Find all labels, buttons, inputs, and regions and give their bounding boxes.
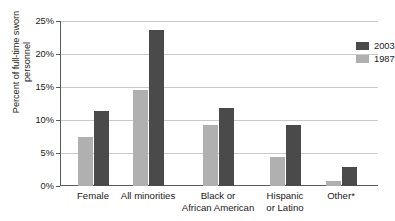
bar-2003-black-or-african-american — [219, 108, 234, 186]
legend-item-1987: 1987 — [356, 53, 395, 64]
x-axis-label-other: Other* — [327, 190, 355, 202]
y-axis-title-line-2: personnel — [22, 42, 34, 82]
x-axis-label-line: or Latino — [266, 202, 303, 214]
legend-label-1987: 1987 — [374, 54, 395, 64]
bar-1987-female — [78, 137, 93, 187]
x-axis-label-line: Hispanic — [267, 190, 304, 202]
legend-item-2003: 2003 — [356, 40, 395, 51]
y-tick-label: 10% — [35, 115, 54, 125]
y-tick-label: 25% — [35, 16, 54, 26]
legend-label-2003: 2003 — [374, 41, 395, 51]
plot-area: 0%5%10%15%20%25% 2003 1987 — [60, 21, 378, 186]
gridline-15% — [61, 87, 378, 88]
y-tick-label: 0% — [41, 181, 54, 191]
x-axis-label-female: Female — [77, 190, 109, 202]
chart-legend: 2003 1987 — [356, 40, 395, 64]
x-axis-label-line: Female — [77, 190, 109, 202]
gridline-25% — [61, 21, 378, 22]
bar-1987-all-minorities — [133, 90, 148, 186]
bar-1987-other — [326, 181, 341, 186]
bar-2003-hispanic-or-latino — [286, 125, 301, 186]
x-axis-label-hispanic-or-latino: Hispanicor Latino — [266, 190, 303, 214]
y-tick-mark — [56, 153, 60, 154]
bar-2003-other — [342, 167, 357, 186]
y-tick-mark — [56, 54, 60, 55]
x-axis-label-line: Other* — [327, 190, 355, 202]
y-tick-label: 15% — [35, 82, 54, 92]
y-tick-mark — [56, 87, 60, 88]
x-axis-label-line: Black or — [201, 190, 236, 202]
y-axis-line — [60, 21, 61, 186]
bar-1987-hispanic-or-latino — [270, 157, 285, 186]
x-axis-label-line: All minorities — [121, 190, 175, 202]
x-axis-label-black-or-african-american: Black orAfrican American — [182, 190, 255, 214]
y-tick-mark — [56, 186, 60, 187]
bar-2003-all-minorities — [149, 30, 164, 186]
y-axis-title-line-1: Percent of full-time sworn — [11, 11, 23, 113]
bar-1987-black-or-african-american — [203, 125, 218, 186]
y-axis-title: Percent of full-time sworn personnel — [7, 0, 37, 142]
gridline-20% — [61, 54, 378, 55]
bar-2003-female — [94, 111, 109, 186]
y-tick-label: 20% — [35, 49, 54, 59]
y-tick-mark — [56, 120, 60, 121]
x-axis-label-line: African American — [182, 202, 255, 214]
legend-swatch-2003-icon — [356, 42, 369, 50]
y-tick-label: 5% — [41, 148, 54, 158]
legend-swatch-1987-icon — [356, 55, 369, 63]
y-tick-mark — [56, 21, 60, 22]
x-axis-label-all-minorities: All minorities — [121, 190, 175, 202]
